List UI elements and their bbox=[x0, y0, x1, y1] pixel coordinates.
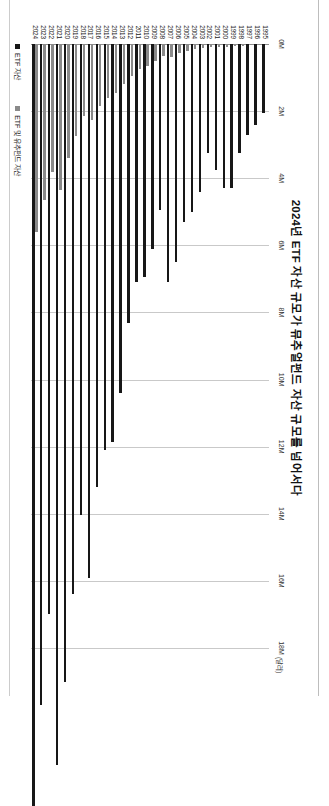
bar-2023 bbox=[40, 44, 42, 705]
x-tick-2M: 2M bbox=[278, 106, 285, 116]
x-axis-tick-labels: 0M2M4M6M8M10M12M14M16M18M(달러) bbox=[271, 44, 285, 648]
bar-row bbox=[213, 44, 221, 648]
bar-row bbox=[79, 44, 87, 648]
bar-1996 bbox=[258, 44, 260, 45]
y-label-2007: 2007 bbox=[166, 25, 173, 39]
x-tick-18M: 18M bbox=[278, 641, 285, 655]
bar-row bbox=[182, 44, 190, 648]
bar-row bbox=[39, 44, 47, 648]
bar-2023 bbox=[43, 44, 45, 200]
bar-2020 bbox=[67, 44, 69, 158]
bar-row bbox=[190, 44, 198, 648]
y-label-2012: 2012 bbox=[127, 25, 134, 39]
bar-row bbox=[261, 44, 269, 648]
bar-2005 bbox=[186, 44, 188, 51]
y-label-2005: 2005 bbox=[182, 25, 189, 39]
bar-row bbox=[126, 44, 134, 648]
bar-row bbox=[118, 44, 126, 648]
bar-row bbox=[110, 44, 118, 648]
x-tick-12M: 12M bbox=[278, 440, 285, 454]
bar-1996 bbox=[254, 44, 256, 125]
bar-2015 bbox=[104, 44, 106, 450]
y-label-1997: 1997 bbox=[246, 25, 253, 39]
bar-row bbox=[166, 44, 174, 648]
bar-2018 bbox=[83, 44, 85, 116]
bar-2016 bbox=[96, 44, 98, 487]
bar-2006 bbox=[175, 44, 177, 262]
bar-2001 bbox=[215, 44, 217, 170]
bar-rows bbox=[31, 44, 269, 648]
bar-row bbox=[174, 44, 182, 648]
y-axis-category-labels: 1995199619971998199920002001200220032004… bbox=[31, 0, 269, 42]
bar-row bbox=[198, 44, 206, 648]
bar-2008 bbox=[159, 44, 161, 210]
chart-legend: ETF 자산ETF 및 유추펀드 자산 bbox=[13, 44, 23, 176]
x-tick-10M: 10M bbox=[278, 373, 285, 387]
y-label-2002: 2002 bbox=[206, 25, 213, 39]
y-label-2015: 2015 bbox=[103, 25, 110, 39]
bar-2002 bbox=[207, 44, 209, 153]
y-label-1998: 1998 bbox=[238, 25, 245, 39]
bar-2010 bbox=[146, 44, 148, 66]
bar-2000 bbox=[226, 44, 228, 47]
x-tick-14M: 14M bbox=[278, 507, 285, 521]
x-tick-4M: 4M bbox=[278, 173, 285, 183]
bar-2012 bbox=[127, 44, 129, 323]
bar-2014 bbox=[112, 44, 114, 442]
bar-2013 bbox=[119, 44, 121, 393]
bar-1999 bbox=[234, 44, 236, 46]
bar-1995 bbox=[265, 44, 267, 45]
bar-row bbox=[55, 44, 63, 648]
bar-2022 bbox=[51, 44, 53, 172]
page-title: 2024년 ETF 자산 규모가 뮤추얼펀드 자산 규모를 넘어서다 bbox=[289, 0, 305, 696]
y-label-1996: 1996 bbox=[254, 25, 261, 39]
bar-2018 bbox=[80, 44, 82, 515]
bar-2001 bbox=[218, 44, 220, 47]
bar-row bbox=[71, 44, 79, 648]
bar-row bbox=[102, 44, 110, 648]
y-label-2018: 2018 bbox=[79, 25, 86, 39]
bar-2005 bbox=[183, 44, 185, 222]
bar-2011 bbox=[135, 44, 137, 282]
bar-2011 bbox=[139, 44, 141, 69]
bar-2002 bbox=[210, 44, 212, 47]
bar-row bbox=[87, 44, 95, 648]
bar-1997 bbox=[246, 44, 248, 135]
y-label-2019: 2019 bbox=[71, 25, 78, 39]
bar-2009 bbox=[154, 44, 156, 61]
y-label-2008: 2008 bbox=[158, 25, 165, 39]
bar-row bbox=[221, 44, 229, 648]
bar-2017 bbox=[91, 44, 93, 120]
bar-1995 bbox=[262, 44, 264, 113]
bar-1999 bbox=[231, 44, 233, 188]
y-label-2024: 2024 bbox=[31, 25, 38, 39]
y-label-2000: 2000 bbox=[222, 25, 229, 39]
bar-row bbox=[134, 44, 142, 648]
bar-2019 bbox=[75, 44, 77, 136]
y-label-2020: 2020 bbox=[63, 25, 70, 39]
bar-2008 bbox=[162, 44, 164, 56]
y-label-2009: 2009 bbox=[150, 25, 157, 39]
y-label-2013: 2013 bbox=[119, 25, 126, 39]
y-label-2014: 2014 bbox=[111, 25, 118, 39]
legend-label: ETF 및 유추펀드 자산 bbox=[13, 115, 23, 176]
bar-2024 bbox=[35, 44, 37, 232]
bar-2006 bbox=[178, 44, 180, 53]
bar-2004 bbox=[191, 44, 193, 212]
legend-swatch-dark-icon bbox=[16, 44, 21, 49]
bar-row bbox=[245, 44, 253, 648]
bar-2022 bbox=[48, 44, 50, 614]
x-tick-8M: 8M bbox=[278, 308, 285, 318]
y-label-2017: 2017 bbox=[87, 25, 94, 39]
legend-item: ETF 및 유추펀드 자산 bbox=[13, 106, 23, 176]
bar-row bbox=[31, 44, 39, 648]
bar-2009 bbox=[151, 44, 153, 249]
bar-2003 bbox=[199, 44, 201, 192]
y-label-1999: 1999 bbox=[230, 25, 237, 39]
bar-2021 bbox=[59, 44, 61, 190]
bar-2013 bbox=[123, 44, 125, 84]
y-label-2006: 2006 bbox=[174, 25, 181, 39]
x-tick-6M: 6M bbox=[278, 240, 285, 250]
